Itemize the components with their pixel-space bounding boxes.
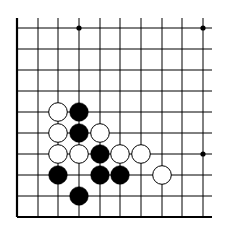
black-stone	[91, 145, 110, 164]
white-stone	[91, 124, 110, 143]
star-point	[200, 25, 205, 30]
go-board	[0, 0, 226, 232]
star-point	[76, 25, 81, 30]
board-grid	[17, 18, 212, 217]
black-stone	[91, 166, 110, 185]
white-stone	[49, 124, 68, 143]
black-stone	[49, 166, 68, 185]
black-stone	[111, 166, 130, 185]
black-stone	[70, 103, 89, 122]
white-stone	[132, 145, 151, 164]
white-stone	[70, 145, 89, 164]
star-point	[200, 151, 205, 156]
white-stone	[49, 145, 68, 164]
black-stone	[70, 187, 89, 206]
white-stone	[111, 145, 130, 164]
white-stone	[153, 166, 172, 185]
black-stone	[70, 124, 89, 143]
white-stone	[49, 103, 68, 122]
